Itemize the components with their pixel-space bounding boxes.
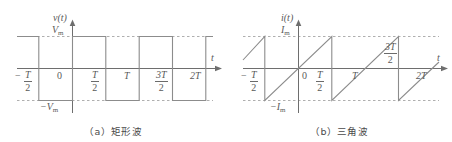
tick-sign-minus-half-T-a: − xyxy=(15,70,21,81)
y-axis-label-v: v(t) xyxy=(53,12,67,23)
tick-label-minus-half-T-b: T 2 xyxy=(250,70,258,93)
panel-triangular-wave: i(t) t Im −Im 0 − T 2 T 2 xyxy=(226,0,452,142)
t-axis-arrow-icon xyxy=(441,66,448,72)
panel-square-wave: v(t) t Vm −Vm 0 − T 2 T 2 xyxy=(0,0,226,142)
v-axis-arrow-icon xyxy=(70,20,76,27)
tick-label-three-half-T-b: 3T 2 xyxy=(384,42,397,65)
origin-label-a: 0 xyxy=(57,70,62,81)
tick-label-half-T-b: T 2 xyxy=(316,70,324,93)
i-axis-arrow-icon xyxy=(296,20,302,27)
tick-sign-minus-half-T-b: − xyxy=(241,70,247,81)
tick-label-three-half-T-a: 3T 2 xyxy=(155,70,168,93)
amplitude-label-im: Im xyxy=(281,24,290,37)
tick-label-two-T-a: 2T xyxy=(190,70,201,81)
origin-label-b: 0 xyxy=(302,70,307,81)
tick-label-two-T-b: 2T xyxy=(416,70,427,81)
amplitude-label-vm: Vm xyxy=(52,24,64,37)
amplitude-label-minus-vm: −Vm xyxy=(40,101,58,114)
x-axis-label-t: t xyxy=(211,52,214,63)
x-axis-label-t: t xyxy=(437,52,440,63)
tick-label-T-a: T xyxy=(124,70,130,81)
t-axis-arrow-icon xyxy=(215,66,222,72)
tick-label-T-b: T xyxy=(352,70,358,81)
amplitude-label-minus-im: −Im xyxy=(270,101,286,114)
caption-panel-b: （b）三角波 xyxy=(226,124,452,138)
waveform-figure: v(t) t Vm −Vm 0 − T 2 T 2 xyxy=(0,0,452,142)
y-axis-label-i: i(t) xyxy=(281,12,293,23)
tick-label-minus-half-T-a: T 2 xyxy=(24,70,32,93)
caption-panel-a: （a）矩形波 xyxy=(0,124,226,138)
tick-label-half-T-a: T 2 xyxy=(91,70,99,93)
